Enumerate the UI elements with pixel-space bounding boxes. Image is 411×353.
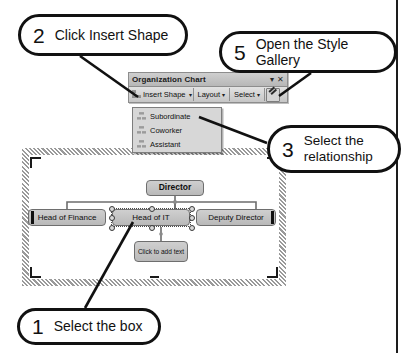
menu-item-coworker[interactable]: Coworker xyxy=(133,123,221,137)
toolbar-button-row: Insert Shape ▾ Layout ▾ Select ▾ xyxy=(128,86,288,103)
layout-label: Layout xyxy=(198,90,221,99)
callout-step-1-text: Select the box xyxy=(54,318,148,334)
canvas-corner-bracket-bottom-left xyxy=(30,267,41,278)
callout-step-3-text: Select the relationship xyxy=(304,133,390,164)
canvas-bottom-middle-handle[interactable] xyxy=(150,276,159,278)
chevron-down-icon[interactable]: ▾ xyxy=(270,76,274,84)
menu-item-assistant-label: Assistant xyxy=(150,140,180,149)
toolbar-separator xyxy=(229,88,230,101)
close-icon[interactable]: ✕ xyxy=(277,76,284,84)
resize-handle-middle-left[interactable] xyxy=(109,215,115,221)
resize-handle-top-left[interactable] xyxy=(109,206,115,212)
select-label: Select xyxy=(234,90,255,99)
menu-item-subordinate[interactable]: Subordinate xyxy=(133,109,221,123)
callout-step-1-number: 1 xyxy=(32,316,44,337)
select-button[interactable]: Select ▾ xyxy=(231,87,263,102)
org-node-director-label: Director xyxy=(159,183,192,193)
resize-handle-top-right[interactable] xyxy=(189,206,195,212)
org-node-head-of-finance[interactable]: Head of Finance xyxy=(28,209,106,226)
coworker-icon xyxy=(137,126,146,134)
insert-shape-label: Insert Shape xyxy=(143,90,186,99)
callout-step-5: 5 Open the Style Gallery xyxy=(219,31,397,73)
callout-step-3-number: 3 xyxy=(282,139,294,160)
callout-step-5-text: Open the Style Gallery xyxy=(256,36,384,68)
screenshot-stage: Director Head of Finance Head of IT Depu… xyxy=(0,0,411,353)
select-caret-icon: ▾ xyxy=(257,92,260,98)
layout-button[interactable]: Layout ▾ xyxy=(195,87,229,102)
resize-handle-bottom-left[interactable] xyxy=(109,225,115,231)
resize-handle-middle-right[interactable] xyxy=(189,215,195,221)
insert-shape-icon xyxy=(132,90,141,99)
insert-shape-button[interactable]: Insert Shape xyxy=(129,87,189,102)
org-node-deputy-director[interactable]: Deputy Director xyxy=(196,209,276,226)
callout-step-3-text-line2: relationship xyxy=(304,149,373,164)
resize-handle-bottom-right[interactable] xyxy=(189,225,195,231)
subordinate-icon xyxy=(137,112,146,120)
org-node-head-of-finance-label: Head of Finance xyxy=(38,213,97,222)
callout-step-5-number: 5 xyxy=(234,42,246,63)
menu-item-subordinate-label: Subordinate xyxy=(150,112,190,121)
toolbar-title-bar[interactable]: Organization Chart ▾ ✕ xyxy=(128,72,288,86)
organization-chart-toolbar[interactable]: Organization Chart ▾ ✕ Insert Shape ▾ La… xyxy=(128,72,288,103)
callout-step-1: 1 Select the box xyxy=(17,308,161,345)
org-node-deputy-director-label: Deputy Director xyxy=(208,213,264,222)
menu-item-assistant[interactable]: Assistant xyxy=(133,137,221,151)
style-gallery-icon[interactable] xyxy=(266,88,280,102)
org-node-director[interactable]: Director xyxy=(146,180,204,196)
toolbar-title: Organization Chart xyxy=(132,75,267,84)
insert-shape-dropdown-menu[interactable]: Subordinate Coworker Assistant xyxy=(132,107,222,153)
resize-handle-bottom-center[interactable] xyxy=(149,225,155,231)
callout-step-3: 3 Select the relationship xyxy=(267,125,401,173)
deputy-director-edge-marker xyxy=(271,211,274,224)
canvas-corner-bracket-top-left xyxy=(30,157,41,168)
insert-shape-caret-icon[interactable]: ▾ xyxy=(189,92,192,98)
callout-step-2-number: 2 xyxy=(33,25,45,46)
callout-step-2: 2 Click Insert Shape xyxy=(18,14,188,56)
assistant-icon xyxy=(137,140,146,148)
callout-step-3-text-line1: Select the xyxy=(304,133,364,148)
layout-caret-icon: ▾ xyxy=(222,92,225,98)
org-node-placeholder[interactable]: Click to add text xyxy=(134,241,188,262)
resize-handle-top-center[interactable] xyxy=(149,206,155,212)
menu-item-coworker-label: Coworker xyxy=(150,126,182,135)
toolbar-separator xyxy=(193,88,194,101)
canvas-corner-bracket-bottom-right xyxy=(267,267,278,278)
toolbar-separator xyxy=(264,88,265,101)
head-of-finance-edge-marker xyxy=(31,211,34,224)
callout-step-2-text: Click Insert Shape xyxy=(55,27,175,43)
org-node-placeholder-label: Click to add text xyxy=(138,248,184,255)
